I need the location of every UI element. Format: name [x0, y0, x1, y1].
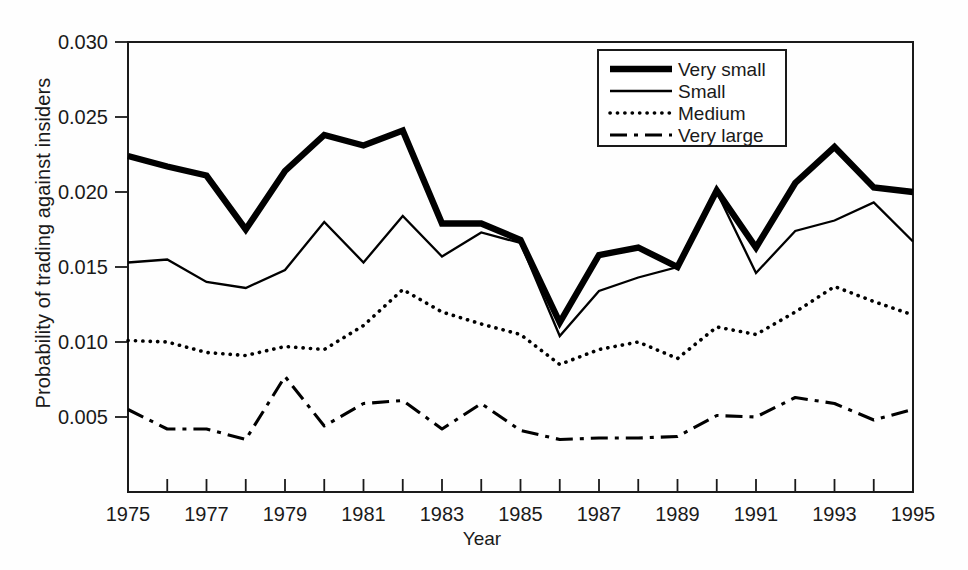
y-tick-label: 0.010: [58, 331, 108, 353]
chart-legend: Very smallSmallMediumVery large: [598, 50, 786, 146]
legend-label-very-large: Very large: [678, 125, 764, 146]
x-tick-label: 1985: [498, 503, 543, 525]
x-tick-label: 1975: [106, 503, 151, 525]
series-line-very-small: [128, 131, 913, 323]
x-axis-ticks: 1975197719791981198319851987198919911993…: [106, 479, 936, 525]
x-tick-label: 1987: [577, 503, 622, 525]
x-tick-label: 1989: [655, 503, 700, 525]
series-layer: [128, 131, 913, 440]
plot-canvas: 0.0300.0250.0200.0150.0100.005 197519771…: [0, 0, 968, 570]
series-line-medium: [128, 287, 913, 365]
x-tick-label: 1993: [812, 503, 857, 525]
legend-label-very-small: Very small: [678, 59, 766, 80]
y-tick-label: 0.030: [58, 31, 108, 53]
x-tick-label: 1983: [420, 503, 465, 525]
series-line-very-large: [128, 377, 913, 440]
x-tick-label: 1979: [263, 503, 308, 525]
y-tick-label: 0.025: [58, 106, 108, 128]
y-tick-label: 0.015: [58, 256, 108, 278]
legend-label-medium: Medium: [678, 103, 746, 124]
plot-frame: [128, 42, 913, 492]
x-tick-label: 1977: [184, 503, 229, 525]
chart-figure: Probability of trading against insiders …: [0, 0, 968, 570]
x-axis-title-text: Year: [463, 528, 501, 550]
x-tick-label: 1995: [891, 503, 936, 525]
x-axis-title: Year: [0, 528, 968, 550]
legend-label-small: Small: [678, 81, 726, 102]
y-axis-ticks: 0.0300.0250.0200.0150.0100.005: [58, 31, 128, 428]
y-tick-label: 0.020: [58, 181, 108, 203]
x-tick-label: 1981: [341, 503, 386, 525]
y-tick-label: 0.005: [58, 406, 108, 428]
series-line-small: [128, 192, 913, 336]
x-tick-label: 1991: [734, 503, 779, 525]
